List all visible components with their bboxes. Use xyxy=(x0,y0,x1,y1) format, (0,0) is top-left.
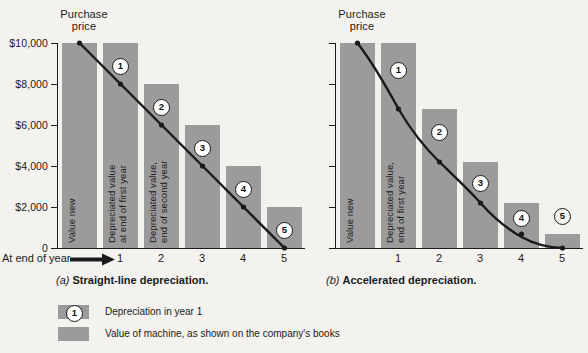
x-tick-label-b-2: 2 xyxy=(427,252,451,264)
chart-panel-b: Purchase price Value new Depreciated val… xyxy=(294,0,588,300)
x-axis-note-label: At end of year xyxy=(2,252,71,264)
gray-swatch-icon: 1 xyxy=(58,305,89,319)
right-arrow-icon xyxy=(70,253,116,267)
caption-a-text: Straight-line depreciation. xyxy=(73,274,209,286)
marker-b-1: 1 xyxy=(390,62,407,79)
legend-label-book-value: Value of machine, as shown on the compan… xyxy=(105,327,340,341)
marker-a-3: 3 xyxy=(194,140,211,157)
x-tick-label-a-3: 3 xyxy=(190,252,214,264)
caption-a-letter: (a) xyxy=(56,274,69,286)
x-tick-label-a-5: 5 xyxy=(272,252,296,264)
gray-swatch-icon-2 xyxy=(58,327,89,341)
caption-a: (a) Straight-line depreciation. xyxy=(56,274,208,286)
x-tick-label-b-1: 1 xyxy=(386,252,410,264)
x-tick-label-b-3: 3 xyxy=(468,252,492,264)
marker-b-3: 3 xyxy=(472,175,489,192)
x-tick-label-b-4: 4 xyxy=(509,252,533,264)
marker-a-5: 5 xyxy=(276,222,293,239)
marker-b-2: 2 xyxy=(431,124,448,141)
x-tick-label-a-2: 2 xyxy=(149,252,173,264)
marker-b-5: 5 xyxy=(554,208,571,225)
x-axis-a xyxy=(57,248,305,249)
marker-b-4: 4 xyxy=(513,210,530,227)
legend-label-depreciation: Depreciation in year 1 xyxy=(105,305,202,319)
caption-b-letter: (b) xyxy=(326,274,339,286)
circled-one-icon: 1 xyxy=(66,305,83,322)
x-tick-label-a-4: 4 xyxy=(231,252,255,264)
caption-b: (b) Accelerated depreciation. xyxy=(326,274,476,286)
marker-a-1: 1 xyxy=(112,58,129,75)
chart-panel-a: Purchase price $10,000 $8,000 $6,000 $4,… xyxy=(0,0,294,300)
caption-b-text: Accelerated depreciation. xyxy=(343,274,477,286)
x-tick-label-b-5: 5 xyxy=(550,252,574,264)
marker-a-4: 4 xyxy=(235,181,252,198)
marker-a-2: 2 xyxy=(153,99,170,116)
x-axis-b xyxy=(335,248,583,249)
